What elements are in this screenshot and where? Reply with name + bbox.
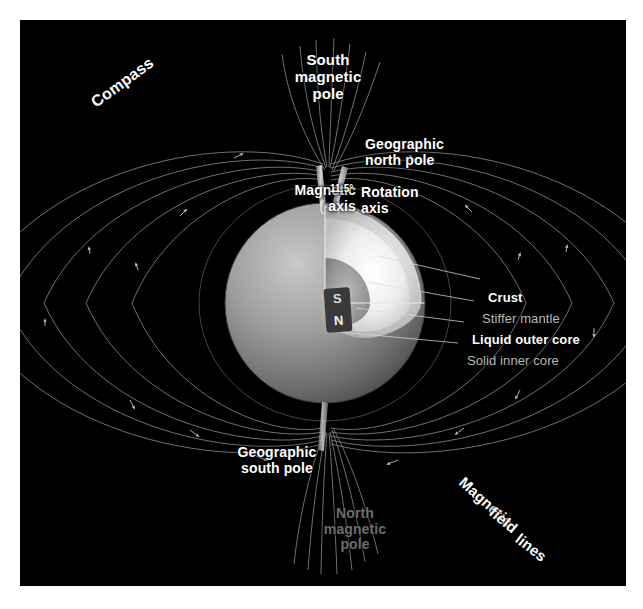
magnet-pole-north: N — [325, 309, 352, 333]
bar-magnet: S N — [323, 287, 352, 333]
field-lines-layer — [20, 20, 626, 586]
label-tilt-angle: 11.5° — [330, 183, 353, 194]
label-crust: Crust — [488, 291, 522, 306]
label-solid-inner-core: Solid inner core — [467, 354, 559, 369]
figure-area: S N South magnetic pole Compass Geograph… — [20, 20, 626, 586]
diagram-canvas: S N South magnetic pole Compass Geograph… — [0, 0, 643, 609]
label-stiffer-mantle: Stiffer mantle — [482, 312, 560, 327]
label-geographic-south-pole: Geographic south pole — [213, 445, 341, 476]
magnet-pole-south: S — [323, 287, 350, 311]
label-north-magnetic-pole: North magnetic pole — [312, 506, 398, 553]
label-liquid-outer-core: Liquid outer core — [472, 333, 580, 348]
label-rotation-axis: Rotation axis — [361, 185, 445, 216]
label-south-magnetic-pole: South magnetic pole — [270, 52, 386, 102]
label-geographic-north-pole: Geographic north pole — [365, 137, 477, 168]
